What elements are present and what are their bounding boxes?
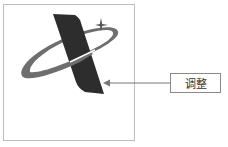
dark-bar <box>53 14 104 94</box>
callout-label: 调整 <box>185 75 207 91</box>
callout-label-box: 调整 <box>170 73 221 93</box>
callout-arrowhead-icon <box>103 80 110 87</box>
